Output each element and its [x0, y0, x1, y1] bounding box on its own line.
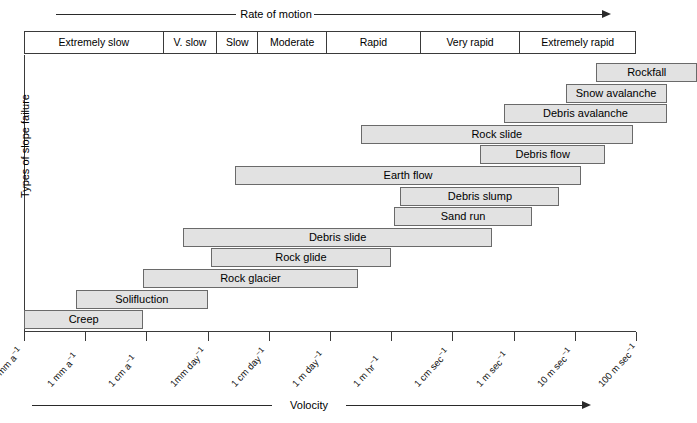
x-tick-label-text: 100 m sec — [596, 349, 634, 389]
rate-class-rapid: Rapid — [327, 32, 421, 53]
rate-of-motion-line-left — [56, 14, 236, 15]
velocity-axis-label: Volocity — [272, 396, 346, 414]
bar-earth-flow: Earth flow — [235, 166, 581, 185]
rate-of-motion-label: Rate of motion — [236, 4, 316, 24]
bar-creep: Creep — [24, 310, 143, 329]
rate-of-motion-axis: Rate of motion — [24, 4, 636, 24]
x-axis-tick-labels: 0.1 mm a−11 mm a−11 cm a−11mm day−11 cm … — [0, 340, 643, 395]
arrow-right-icon — [602, 10, 611, 18]
x-tick-label-9: 10 m sec−1 — [533, 345, 575, 389]
x-tick-label-8: 1 m sec−1 — [472, 349, 511, 389]
bar-debris-slide: Debris slide — [183, 228, 492, 247]
x-tick-label-6: 1 m hr−1 — [349, 354, 383, 389]
bar-rockfall: Rockfall — [596, 63, 697, 82]
bar-rock-glide: Rock glide — [211, 248, 392, 267]
x-tick-label-text: 1 cm sec — [412, 354, 446, 389]
bar-solifluction: Solifluction — [76, 290, 208, 309]
x-tick-label-text: 1 m sec — [473, 357, 504, 389]
x-tick-label-text: 1 m day — [290, 357, 321, 389]
x-tick-label-text: 0.1 mm a — [0, 353, 19, 389]
rate-of-motion-line-right — [314, 14, 604, 15]
x-tick-label-1: 1 mm a−1 — [43, 350, 80, 389]
rate-class-extremely-rapid: Extremely rapid — [520, 32, 635, 53]
x-tick-label-4: 1 cm day−1 — [227, 345, 269, 389]
bar-sand-run: Sand run — [394, 207, 532, 226]
velocity-axis: Volocity — [24, 396, 636, 414]
x-tick-label-text: 10 m sec — [534, 353, 568, 389]
bar-rock-glacier: Rock glacier — [143, 269, 357, 288]
x-tick-label-3: 1mm day−1 — [166, 345, 208, 389]
x-tick-label-0: 0.1 mm a−1 — [0, 344, 25, 389]
bar-debris-flow: Debris flow — [480, 145, 605, 164]
x-tick-label-text: 1 mm a — [45, 358, 75, 389]
x-tick-label-10: 100 m sec−1 — [594, 341, 640, 389]
rate-class-moderate: Moderate — [258, 32, 327, 53]
x-tick-label-text: 1 cm day — [228, 353, 262, 389]
velocity-line-left — [32, 405, 272, 406]
bar-snow-avalanche: Snow avalanche — [566, 84, 667, 103]
x-tick-label-7: 1 cm sec−1 — [410, 346, 452, 389]
rate-class-header-band: Extremely slowV. slowSlowModerateRapidVe… — [24, 31, 636, 54]
rate-class-v-slow: V. slow — [164, 32, 218, 53]
rate-class-extremely-slow: Extremely slow — [25, 32, 164, 53]
bar-debris-avalanche: Debris avalanche — [504, 104, 666, 123]
plot-area: RockfallSnow avalancheDebris avalancheRo… — [24, 55, 636, 332]
x-tick-label-5: 1 m day−1 — [288, 349, 327, 389]
rate-class-very-rapid: Very rapid — [421, 32, 521, 53]
velocity-line-right — [346, 405, 584, 406]
bar-rock-slide: Rock slide — [361, 125, 633, 144]
bar-debris-slump: Debris slump — [400, 187, 559, 206]
rate-class-slow: Slow — [217, 32, 258, 53]
x-tick-label-text: 1mm day — [167, 353, 202, 389]
x-tick-label-2: 1 cm a−1 — [104, 352, 139, 389]
y-axis-title: Types of slope failure — [19, 36, 31, 256]
arrow-right-icon — [582, 401, 591, 409]
